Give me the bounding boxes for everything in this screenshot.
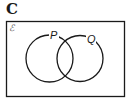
universal-set-symbol: ℰ bbox=[9, 23, 16, 33]
universal-set-rectangle bbox=[7, 22, 125, 97]
set-p-label: P bbox=[50, 29, 58, 41]
venn-diagram: ℰ P Q bbox=[0, 0, 128, 101]
set-q-label: Q bbox=[87, 33, 96, 45]
set-q-circle bbox=[57, 36, 103, 82]
set-p-circle bbox=[26, 35, 73, 82]
